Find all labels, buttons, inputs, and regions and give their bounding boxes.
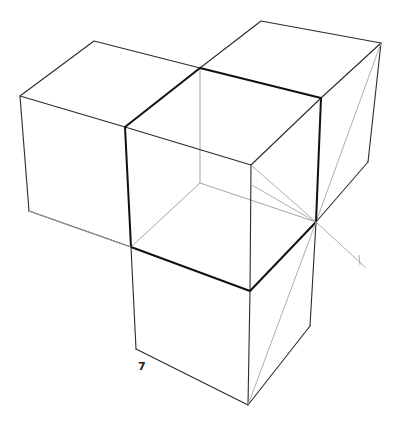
center-cube xyxy=(125,68,321,291)
left-cube xyxy=(20,41,200,247)
cube-drawing xyxy=(0,0,402,428)
cube-diagram: 7 xyxy=(0,0,402,428)
bottom-cube xyxy=(131,222,316,405)
figure-label: 7 xyxy=(138,360,146,373)
center-cube-hidden-edges xyxy=(125,68,321,291)
